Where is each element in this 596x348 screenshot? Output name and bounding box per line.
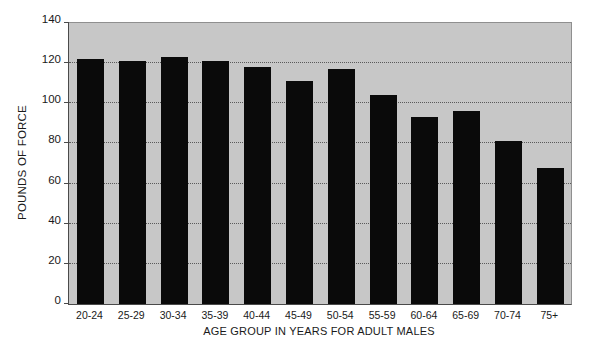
bar	[202, 61, 229, 304]
y-axis-tick	[64, 22, 69, 23]
y-axis-tick-label: 140	[42, 13, 61, 25]
bar	[495, 141, 522, 304]
y-axis-tick-label: 20	[48, 254, 61, 266]
bar	[77, 59, 104, 304]
bar	[411, 117, 438, 304]
bar	[370, 95, 397, 304]
plot-area: 020406080100120140	[68, 22, 572, 305]
bar	[119, 61, 146, 304]
y-axis-tick	[64, 62, 69, 63]
bar	[244, 67, 271, 304]
y-axis-tick	[64, 263, 69, 264]
bar	[161, 57, 188, 304]
y-axis-tick	[64, 223, 69, 224]
y-axis-tick-label: 40	[48, 214, 61, 226]
x-axis-title: AGE GROUP IN YEARS FOR ADULT MALES	[68, 325, 570, 337]
x-axis-tick-label: 75+	[519, 309, 579, 321]
y-axis-tick-label: 60	[48, 174, 61, 186]
y-axis-title: POUNDS OF FORCE	[14, 22, 30, 303]
y-axis-tick-label: 0	[55, 294, 61, 306]
bar	[286, 81, 313, 304]
y-axis-tick-label: 120	[42, 53, 61, 65]
bar	[537, 168, 564, 304]
y-axis-tick	[64, 303, 69, 304]
y-axis-tick-label: 100	[42, 93, 61, 105]
bar	[453, 111, 480, 304]
bar	[328, 69, 355, 304]
y-axis-tick-label: 80	[48, 133, 61, 145]
y-axis-tick	[64, 142, 69, 143]
y-axis-tick	[64, 102, 69, 103]
y-axis-tick	[64, 183, 69, 184]
chart-figure: POUNDS OF FORCE 020406080100120140 AGE G…	[0, 0, 596, 348]
